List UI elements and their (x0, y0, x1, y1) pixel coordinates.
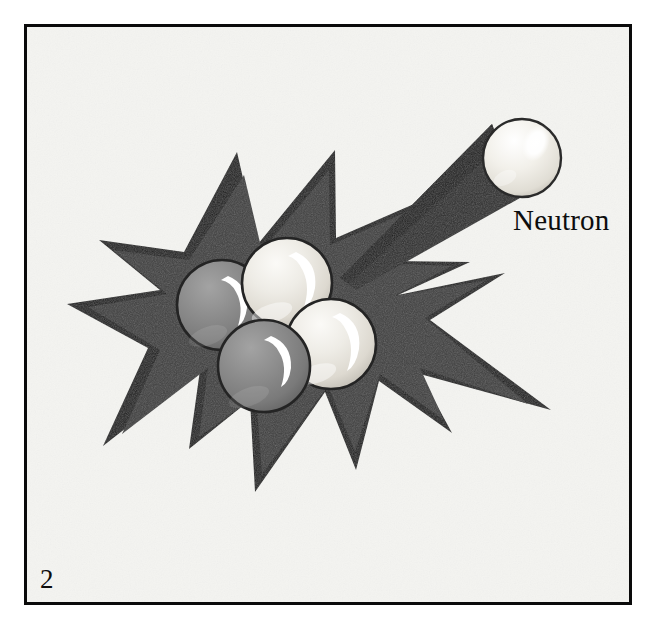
incoming-neutron-sphere (483, 119, 561, 197)
incoming-neutron-body (483, 119, 561, 197)
illustration-root: Neutron 2 (0, 0, 658, 642)
nucleon-proton-bottom (218, 320, 310, 413)
neutron-label: Neutron (513, 204, 610, 236)
figure-number: 2 (40, 564, 54, 594)
nuclear-fission-figure: Neutron 2 (0, 0, 658, 642)
